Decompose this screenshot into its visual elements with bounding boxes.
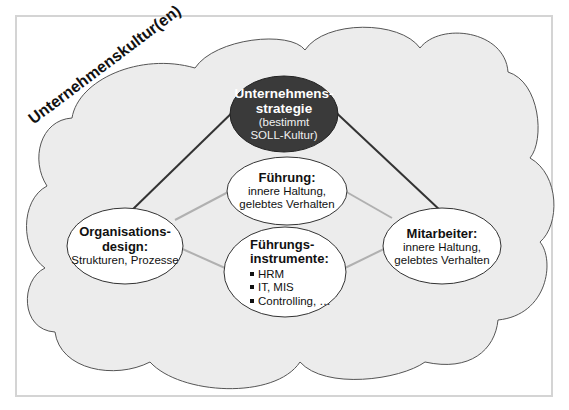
employees-sub-1: innere Haltung, <box>403 241 481 254</box>
strategy-title-2: strategie <box>256 101 312 116</box>
bullet-icon <box>250 285 254 289</box>
tools-list: HRM IT, MIS Controlling, … <box>250 268 331 309</box>
tools-item: IT, MIS <box>250 281 331 295</box>
strategy-sub-1: (bestimmt <box>259 116 309 129</box>
leadership-sub-1: innere Haltung, <box>248 185 326 198</box>
tools-title-1: Führungs- <box>250 238 314 253</box>
tools-item: HRM <box>250 268 331 282</box>
leadership-sub-2: gelebtes Verhalten <box>239 198 334 211</box>
leadership-title: Führung: <box>258 171 315 186</box>
strategy-sub-2: SOLL-Kultur) <box>250 129 317 142</box>
tools-node: Führungs- instrumente: HRM IT, MIS Contr… <box>250 240 350 306</box>
org-design-node: Organisations- design: Strukturen, Proze… <box>69 220 181 272</box>
org-design-title-2: design: <box>102 240 148 255</box>
employees-sub-2: gelebtes Verhalten <box>394 254 489 267</box>
employees-node: Mitarbeiter: innere Haltung, gelebtes Ve… <box>386 222 498 272</box>
tools-title-2: instrumente: <box>250 252 329 267</box>
bullet-icon <box>250 272 254 276</box>
org-design-sub: Strukturen, Prozesse <box>71 254 178 267</box>
employees-title: Mitarbeiter: <box>407 227 478 242</box>
bullet-icon <box>250 299 254 303</box>
org-design-title-1: Organisations- <box>79 225 171 240</box>
tools-item: Controlling, … <box>250 295 331 309</box>
leadership-node: Führung: innere Haltung, gelebtes Verhal… <box>229 163 345 219</box>
strategy-node: Unternehmens- strategie (bestimmt SOLL-K… <box>232 80 336 148</box>
strategy-title-1: Unternehmens- <box>234 86 333 101</box>
